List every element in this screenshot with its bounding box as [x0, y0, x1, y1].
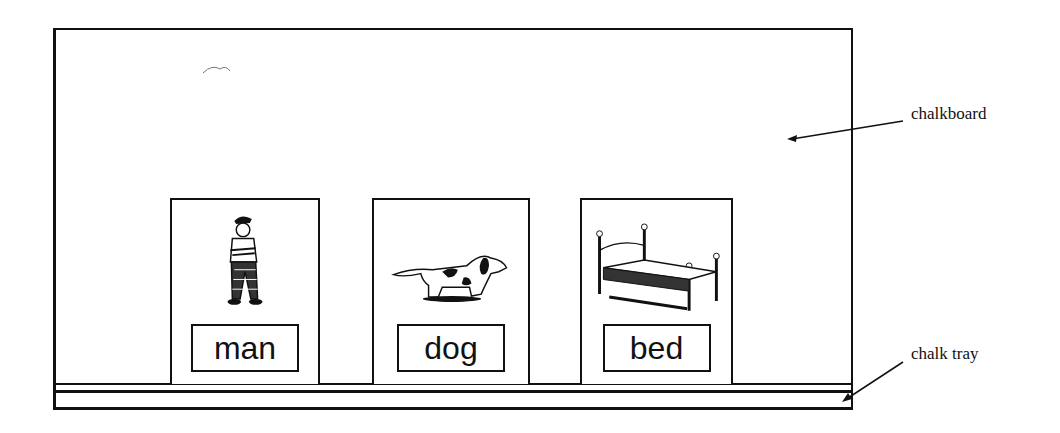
chalkboard-arrowhead [787, 135, 797, 142]
chalk-mark [203, 67, 230, 73]
picture-card-bed: bed [580, 198, 733, 384]
picture-card-dog: dog [372, 198, 530, 384]
man-icon [172, 200, 318, 320]
word-card-man: man [191, 324, 299, 372]
chalkboard-arrow [792, 121, 903, 139]
chalkboard-label: chalkboard [911, 104, 987, 124]
dog-icon [374, 200, 528, 320]
picture-card-man: man [170, 198, 320, 384]
chalk-tray-arrowhead [842, 393, 852, 402]
bed-icon [582, 200, 731, 320]
chalk-tray-arrow [848, 362, 903, 398]
chalk-tray-label: chalk tray [911, 344, 979, 364]
annotation-layer [0, 0, 1060, 433]
word-card-bed: bed [603, 324, 711, 372]
word-card-dog: dog [397, 324, 505, 372]
